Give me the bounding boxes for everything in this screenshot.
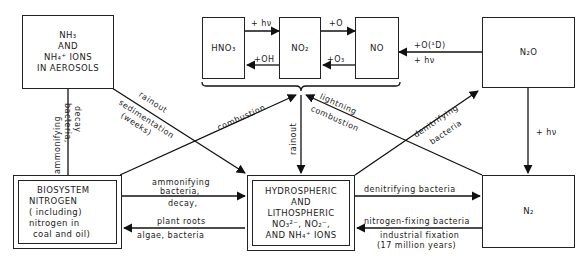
label-hydro-to-bio-b: algae, bacteria — [137, 231, 204, 240]
label-n2-to-hydro-a: nitrogen-fixing bacteria — [364, 217, 470, 226]
node-n2: N₂ — [482, 175, 575, 248]
biosystem-line3: ( including) — [29, 207, 82, 218]
no2-label: NO₂ — [291, 43, 309, 54]
node-no: NO — [355, 17, 399, 79]
biosystem-line4: nitrogen in — [29, 218, 79, 229]
label-hydro-to-bio-a: plant roots — [157, 217, 206, 226]
label-bio-to-hydro-a: ammonifying — [152, 178, 210, 187]
label-n2-to-hydro-b: industrial fixation — [380, 231, 459, 240]
label-n2o-to-no-top: +O(¹D) — [414, 41, 446, 50]
biosystem-line5: coal and oil) — [29, 229, 90, 240]
label-n2-to-hydro-c: (17 million years) — [377, 241, 456, 250]
hydro-line3: LITHOSPHERIC — [268, 208, 335, 219]
n2-label: N₂ — [523, 206, 534, 217]
label-no2-to-no: +O — [329, 19, 343, 28]
label-n2o-to-no-bottom: + hν — [414, 56, 435, 65]
hno3-label: HNO₃ — [211, 43, 235, 54]
node-aerosols: NH₃ AND NH₄⁺ IONS IN AEROSOLS — [22, 15, 114, 89]
label-bio-to-hydro-c: decay, — [168, 199, 198, 208]
biosystem-line1: BIOSYSTEM — [29, 185, 90, 196]
no-label: NO — [370, 43, 384, 54]
label-bio-to-aerosols-b: bacteria, — [63, 103, 72, 143]
aerosols-line3: NH₄⁺ IONS — [44, 52, 92, 63]
node-biosystem: BIOSYSTEM NITROGEN ( including) nitrogen… — [13, 175, 122, 249]
label-bio-to-aerosols-a: ammonifying — [53, 116, 62, 174]
node-no2: NO₂ — [279, 17, 321, 79]
hydro-line4: NO₃²⁻, NO₂⁻, — [272, 219, 330, 230]
aerosols-line4: IN AEROSOLS — [37, 63, 99, 74]
label-nox-to-hydro: rainout — [289, 123, 298, 155]
label-no-to-no2: +O₃ — [327, 55, 345, 64]
hydro-line1: HYDROSPHERIC — [265, 186, 337, 197]
node-n2o: N₂O — [482, 17, 575, 88]
label-hydro-to-n2: denitrifying bacteria — [364, 185, 456, 194]
aerosols-line1: NH₃ — [59, 30, 76, 41]
hydro-line5: AND NH₄⁺ IONS — [266, 230, 337, 241]
aerosols-line2: AND — [58, 41, 78, 52]
biosystem-line2: NITROGEN — [29, 196, 77, 207]
hydro-line2: AND — [291, 197, 311, 208]
node-hno3: HNO₃ — [202, 17, 245, 79]
label-hno3-to-no2: + hν — [251, 19, 272, 28]
label-bio-to-aerosols-c: decay — [73, 106, 82, 133]
label-no2-to-hno3: +OH — [254, 55, 275, 64]
n2o-label: N₂O — [520, 47, 538, 58]
label-bio-to-hydro-b: bacteria, — [160, 187, 200, 196]
node-hydrospheric: HYDROSPHERIC AND LITHOSPHERIC NO₃²⁻, NO₂… — [247, 175, 355, 251]
label-n2o-to-n2: + hν — [536, 128, 557, 137]
